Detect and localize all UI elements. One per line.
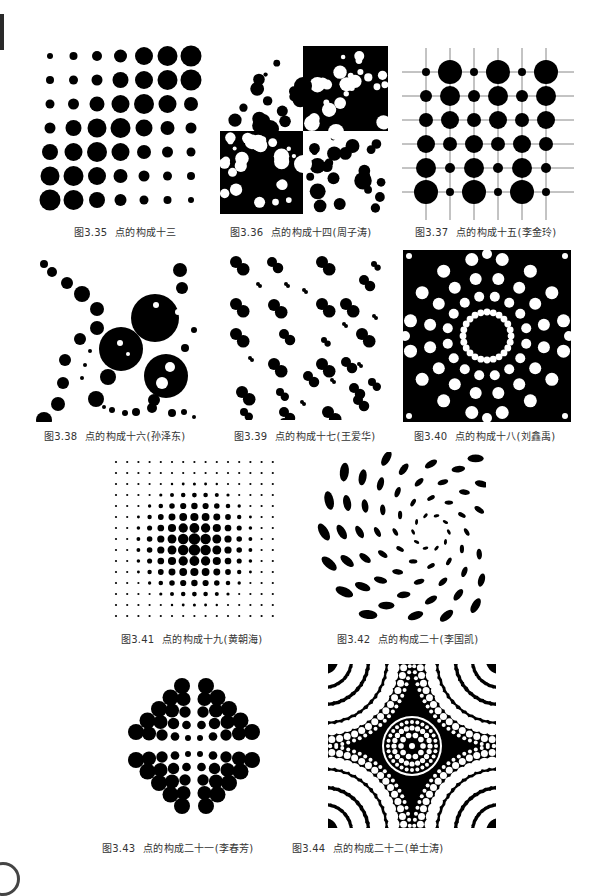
dot-composition-graphic — [316, 452, 486, 624]
page-corner-circle — [0, 862, 20, 896]
dot-composition-graphic — [108, 660, 280, 832]
dot-composition-graphic — [30, 250, 202, 422]
caption-3-38: 图3.38点的构成十六(孙泽东) — [44, 428, 185, 443]
dot-composition-graphic — [36, 44, 204, 216]
figure-3-40 — [403, 250, 571, 422]
figure-3-44 — [324, 660, 500, 832]
figure-3-37 — [402, 44, 574, 220]
dot-composition-graphic — [403, 250, 571, 422]
dot-composition-graphic — [106, 452, 276, 618]
dot-composition-graphic — [402, 44, 574, 220]
caption-3-43: 图3.43点的构成二十一(李春芳) — [102, 840, 253, 855]
figure-3-41 — [106, 452, 276, 618]
caption-3-41: 图3.41点的构成十九(黄朝海) — [121, 631, 262, 646]
caption-3-36: 图3.36点的构成十四(周子涛) — [230, 224, 371, 239]
figure-3-39 — [224, 252, 388, 420]
caption-3-35: 图3.35点的构成十三 — [74, 224, 176, 239]
caption-3-37: 图3.37点的构成十五(李金玲) — [415, 224, 556, 239]
caption-3-42: 图3.42点的构成二十(李国凯) — [337, 631, 478, 646]
figure-3-38 — [30, 250, 202, 422]
caption-3-39: 图3.39点的构成十七(王爱华) — [234, 428, 375, 443]
dot-composition-graphic — [224, 252, 388, 420]
dot-composition-graphic — [324, 660, 500, 832]
figure-3-36 — [218, 46, 388, 216]
figure-3-35 — [36, 44, 204, 216]
caption-3-44: 图3.44点的构成二十二(单士涛) — [292, 840, 443, 855]
figure-3-42 — [316, 452, 486, 624]
caption-3-40: 图3.40点的构成十八(刘鑫禹) — [414, 428, 555, 443]
figure-3-43 — [108, 660, 280, 832]
dot-composition-graphic — [218, 46, 388, 216]
page-edge-marker — [0, 14, 4, 50]
